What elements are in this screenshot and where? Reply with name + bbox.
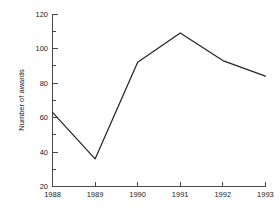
x-tick-label: 1992: [214, 190, 231, 199]
y-tick-label: 80: [40, 79, 48, 88]
x-tick-label: 1991: [172, 190, 189, 199]
y-axis-title: Number of awards: [17, 69, 26, 131]
x-tick-label: 1988: [44, 190, 61, 199]
x-tick-label: 1989: [87, 190, 104, 199]
y-tick-label: 60: [40, 113, 48, 122]
x-tick-label: 1990: [129, 190, 146, 199]
y-tick-label: 40: [40, 148, 48, 157]
x-tick-label: 1993: [257, 190, 274, 199]
y-tick-label: 120: [35, 10, 48, 19]
y-tick-label: 100: [35, 44, 48, 53]
line-chart: 20 40 60 80 100 120 1988 1989 1990 1991 …: [0, 0, 280, 215]
chart-container: 20 40 60 80 100 120 1988 1989 1990 1991 …: [0, 0, 280, 215]
